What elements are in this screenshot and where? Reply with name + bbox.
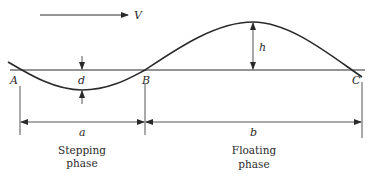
point-c-label: C: [352, 74, 361, 87]
point-a-label: A: [9, 74, 18, 87]
stepping-phase-line1: Stepping: [58, 144, 106, 156]
trajectory-curve: [8, 22, 362, 90]
extension-lines: [20, 82, 362, 138]
velocity-label: V: [134, 9, 143, 22]
stepping-length-label: a: [79, 126, 86, 139]
floating-phase-line1: Floating: [232, 144, 277, 156]
stepping-floating-diagram: V A B C d h a b Stepping phase Floating …: [0, 0, 380, 180]
height-label: h: [259, 41, 266, 54]
point-b-label: B: [141, 74, 150, 87]
floating-length-label: b: [250, 126, 257, 139]
stepping-phase-line2: phase: [66, 157, 97, 169]
floating-phase-line2: phase: [238, 158, 269, 170]
depth-label: d: [78, 74, 85, 87]
